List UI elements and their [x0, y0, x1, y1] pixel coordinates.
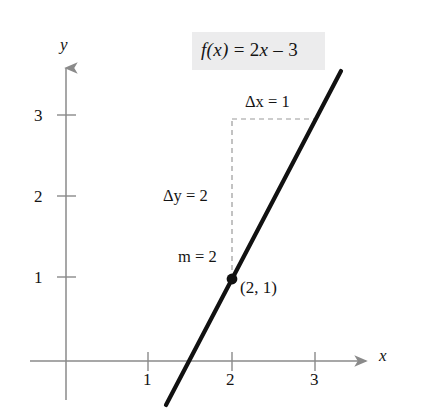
x-axis-label: x	[379, 347, 387, 364]
y-tick-label-1: 1	[34, 269, 43, 286]
formula-coefficient: 2	[250, 39, 260, 60]
formula-paren-close: )	[222, 39, 229, 60]
point-coordinate-label: (2, 1)	[240, 279, 277, 296]
x-tick-label-1: 1	[143, 371, 152, 388]
delta-y-label: Δy = 2	[163, 188, 208, 205]
graph-figure: f(x) = 2x – 3 Δx = 1 Δy = 2 m = 2 (2, 1)…	[0, 0, 422, 410]
formula-arg: x	[213, 39, 222, 60]
formula-constant: 3	[288, 39, 298, 60]
formula-minus: –	[273, 39, 283, 60]
x-tick-label-3: 3	[310, 371, 319, 388]
formula-equals: =	[234, 39, 245, 60]
x-tick-label-2: 2	[226, 371, 235, 388]
delta-x-label: Δx = 1	[245, 94, 290, 111]
formula-variable: x	[260, 39, 269, 60]
point-marker	[227, 274, 238, 285]
y-tick-label-2: 2	[34, 188, 43, 205]
y-axis-label: y	[60, 36, 68, 53]
y-tick-label-3: 3	[34, 107, 43, 124]
function-formula: f(x) = 2x – 3	[201, 40, 298, 59]
slope-label: m = 2	[178, 249, 217, 266]
